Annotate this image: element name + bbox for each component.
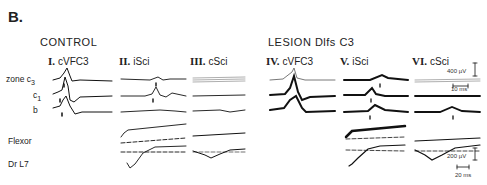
traces-col-4 <box>270 68 335 112</box>
traces-col-1 <box>53 68 112 116</box>
traces-col-3 <box>193 77 245 158</box>
traces-col-6 <box>415 79 480 160</box>
traces-col-5 <box>344 75 408 166</box>
trace-plots <box>0 0 487 185</box>
traces-col-2 <box>121 77 186 168</box>
